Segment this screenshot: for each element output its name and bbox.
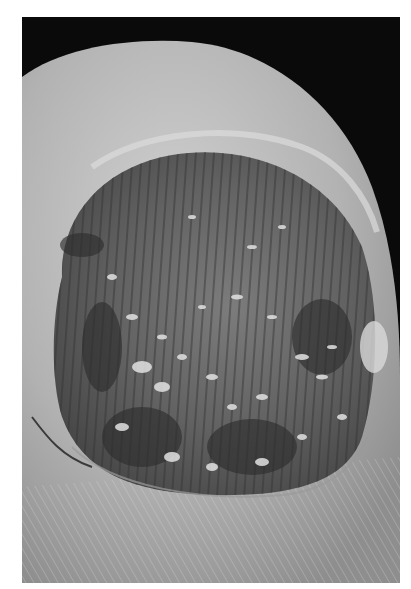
nail-photograph <box>22 17 400 583</box>
lateral-scale <box>360 321 388 373</box>
fingertip-illustration <box>22 17 400 583</box>
